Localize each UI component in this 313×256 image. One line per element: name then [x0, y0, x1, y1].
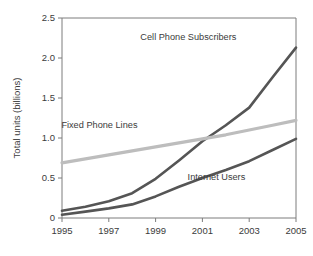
series-label-cell-phone-subscribers: Cell Phone Subscribers: [140, 32, 236, 42]
y-tick-label: 2.0: [42, 52, 55, 63]
y-tick-label: 0: [50, 212, 55, 223]
y-tick-label: 1.5: [42, 92, 55, 103]
series-label-internet-users: Internet Users: [188, 172, 246, 182]
line-chart: 00.51.01.52.02.5199519971999200120032005…: [0, 0, 313, 256]
chart-container: 00.51.01.52.02.5199519971999200120032005…: [0, 0, 313, 256]
y-tick-label: 2.5: [42, 12, 55, 23]
y-tick-label: 1.0: [42, 132, 55, 143]
x-tick-label: 2001: [192, 225, 213, 236]
y-axis-title: Total units (billions): [11, 78, 22, 159]
x-tick-label: 1995: [51, 225, 72, 236]
series-label-fixed-phone-lines: Fixed Phone Lines: [61, 120, 138, 130]
x-tick-label: 1997: [98, 225, 119, 236]
x-tick-label: 1999: [145, 225, 166, 236]
y-tick-label: 0.5: [42, 172, 55, 183]
x-tick-label: 2003: [239, 225, 260, 236]
x-tick-label: 2005: [285, 225, 306, 236]
